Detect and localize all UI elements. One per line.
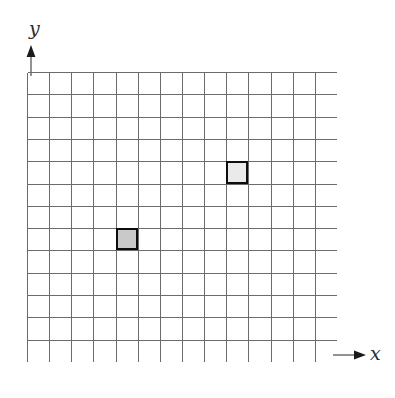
- shaded-cell-light: [226, 161, 248, 183]
- grid-plot-area: [27, 72, 337, 362]
- coordinate-grid-figure: y x: [0, 0, 395, 398]
- x-axis-label: x: [370, 344, 381, 363]
- x-axis-arrow: [333, 344, 367, 366]
- y-axis-label: y: [29, 19, 40, 38]
- shaded-cell-dark: [116, 228, 138, 250]
- grid-lines: [27, 72, 337, 362]
